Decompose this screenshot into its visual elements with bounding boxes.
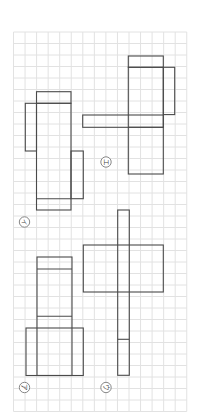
net-e: エ <box>83 56 175 174</box>
net-label-text: ア <box>20 384 28 391</box>
net-face <box>118 210 130 375</box>
net-face <box>25 103 36 151</box>
net-label-e: エ <box>101 157 111 167</box>
grid-lines <box>14 32 187 412</box>
net-face <box>37 103 72 210</box>
net-face <box>128 67 163 174</box>
net-face <box>37 92 72 104</box>
net-label-a: ア <box>19 382 29 392</box>
net-face <box>128 56 163 67</box>
net-label-text: イ <box>20 219 28 226</box>
net-face <box>26 328 83 376</box>
net-a: ア <box>19 257 83 393</box>
net-label-text: エ <box>102 159 110 166</box>
net-face <box>163 67 174 114</box>
net-label-text: ウ <box>102 384 110 391</box>
net-label-i: イ <box>19 217 29 227</box>
grid-paper-figure: アイウエ <box>0 0 202 420</box>
net-label-u: ウ <box>101 382 111 392</box>
